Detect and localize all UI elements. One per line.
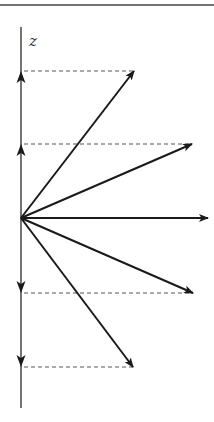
z-axis-label: z <box>28 32 37 50</box>
vector-down-shallow <box>21 218 193 293</box>
angular-momentum-vectors <box>21 71 208 367</box>
angular-momentum-vector-diagram: z <box>0 0 214 422</box>
vector-up-shallow <box>21 144 192 218</box>
